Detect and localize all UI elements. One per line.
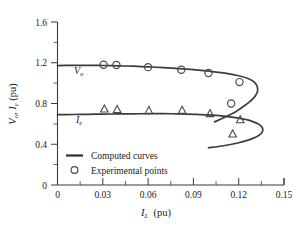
svg-text:Vo, Ie (pu): Vo, Ie (pu) xyxy=(7,83,19,125)
chart-svg: 0 0.4 0.8 1.2 1.6 0 0.03 0.06 0.09 0.12 … xyxy=(0,0,304,227)
x-tick-label-1: 0.03 xyxy=(94,190,111,200)
y-tick-label-4: 1.6 xyxy=(35,18,47,28)
y-tick-label-1: 0.4 xyxy=(35,140,47,150)
x-tick-label-2: 0.06 xyxy=(140,190,157,200)
x-tick-label-5: 0.15 xyxy=(276,190,293,200)
y-axis-title-unit: (pu) xyxy=(7,83,19,101)
y-axis-title: Vo, Ie (pu) xyxy=(7,83,19,125)
y-tick-label-2: 0.8 xyxy=(35,99,47,109)
x-tick-label-3: 0.09 xyxy=(185,190,202,200)
x-tick-label-0: 0 xyxy=(55,190,60,200)
chart-figure: 0 0.4 0.8 1.2 1.6 0 0.03 0.06 0.09 0.12 … xyxy=(0,0,304,227)
y-tick-label-3: 1.2 xyxy=(35,58,47,68)
x-axis-title-unit: (pu) xyxy=(154,207,172,219)
y-tick-label-0: 0 xyxy=(42,181,47,191)
legend-label-experimental: Experimental points xyxy=(91,166,168,176)
x-tick-label-4: 0.12 xyxy=(230,190,247,200)
legend-label-computed: Computed curves xyxy=(91,151,158,161)
